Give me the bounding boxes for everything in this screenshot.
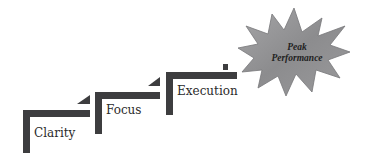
step-label-clarity: Clarity — [34, 127, 75, 139]
connector-block — [223, 64, 228, 70]
connector-triangle — [148, 77, 160, 86]
step-label-execution: Execution — [177, 85, 238, 97]
peak-performance-label: Peak Performance — [262, 42, 332, 64]
step-label-focus: Focus — [106, 104, 142, 116]
peak-label-line2: Performance — [262, 53, 332, 64]
connector-triangle — [77, 95, 90, 104]
peak-label-line1: Peak — [262, 42, 332, 53]
staircase-diagram: Clarity Focus Execution Peak Performance — [0, 0, 368, 164]
